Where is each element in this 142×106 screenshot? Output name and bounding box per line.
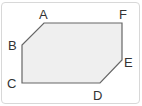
vertex-label-b: B (8, 38, 17, 53)
vertex-label-a: A (39, 7, 48, 22)
vertex-label-c: C (7, 76, 16, 91)
vertex-label-e: E (124, 55, 133, 70)
hexagon-diagram: A F B C E D (0, 0, 142, 106)
vertex-label-d: D (93, 88, 102, 103)
hexagon-shape (22, 23, 122, 83)
vertex-label-f: F (119, 7, 127, 22)
